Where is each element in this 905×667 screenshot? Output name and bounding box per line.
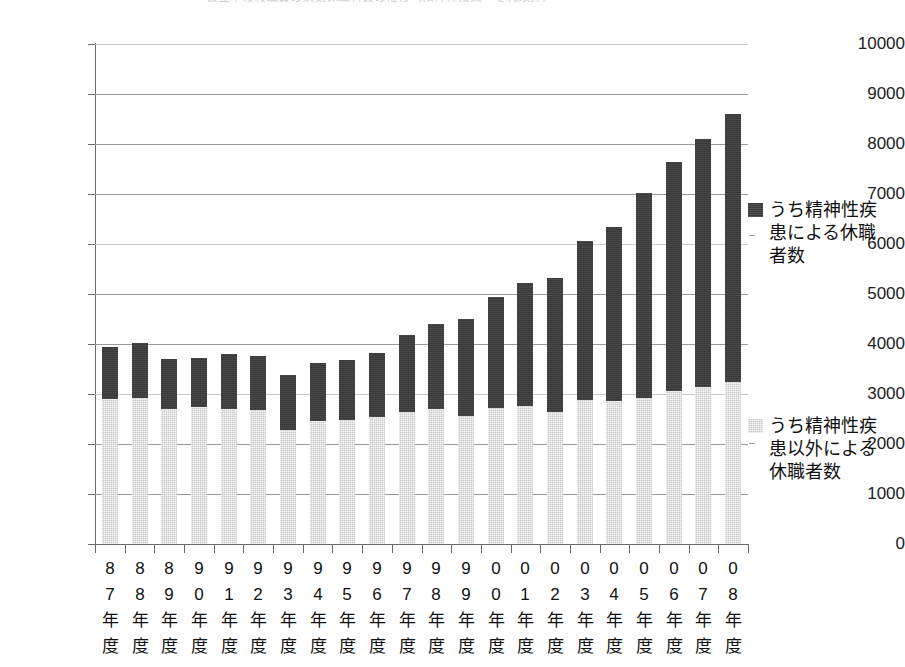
legend-swatch-mental-icon	[748, 203, 763, 217]
x-axis-tick-label: 89年度	[155, 556, 183, 660]
bar-segment-other	[369, 417, 385, 544]
bar-segment-other	[636, 398, 652, 544]
x-axis-tick-mark	[332, 545, 333, 553]
bar-segment-mental	[399, 335, 415, 412]
plot-area	[95, 44, 748, 544]
bar-stack[interactable]	[221, 354, 237, 544]
x-axis-tick-mark	[273, 545, 274, 553]
x-axis-tick-mark	[570, 545, 571, 553]
chart-container: 公立学校教職員の病気休職者数の推移（精神性疾患・それ以外） 0100020003…	[0, 0, 905, 667]
y-axis-tick-label: 5000	[821, 285, 905, 302]
bar-segment-other	[695, 387, 711, 544]
bar-stack[interactable]	[666, 162, 682, 544]
x-axis-tick-mark	[659, 545, 660, 553]
bar-stack[interactable]	[369, 353, 385, 544]
x-axis-tick-label: 00年度	[482, 556, 510, 660]
x-axis-tick-label: 87年度	[96, 556, 124, 660]
x-axis-tick-mark	[481, 545, 482, 553]
x-axis-tick-mark	[303, 545, 304, 553]
bar-stack[interactable]	[695, 140, 711, 544]
bar-stack[interactable]	[161, 360, 177, 544]
x-axis-tick-label: 05年度	[630, 556, 658, 660]
bar-segment-other	[161, 409, 177, 544]
bar-stack[interactable]	[547, 278, 563, 544]
bar-stack[interactable]	[488, 297, 504, 544]
x-axis-tick-mark	[243, 545, 244, 553]
bar-stack[interactable]	[636, 193, 652, 544]
bar-segment-mental	[280, 375, 296, 430]
bar-stack[interactable]	[399, 335, 415, 544]
x-axis-tick-mark	[392, 545, 393, 553]
x-axis-tick-mark	[600, 545, 601, 553]
bar-stack[interactable]	[102, 348, 118, 544]
x-axis-tick-mark	[362, 545, 363, 553]
bar-stack[interactable]	[132, 343, 148, 544]
x-axis-tick-label: 06年度	[660, 556, 688, 660]
x-axis-tick-label: 01年度	[511, 556, 539, 660]
bar-segment-other	[458, 416, 474, 544]
bar-stack[interactable]	[458, 319, 474, 544]
bar-segment-other	[280, 430, 296, 544]
bar-segment-other	[428, 409, 444, 544]
x-axis-tick-label: 04年度	[600, 556, 628, 660]
x-axis-tick-mark	[214, 545, 215, 553]
legend-item-other[interactable]: うち精神性疾患以外による休職者数	[748, 415, 889, 484]
x-axis-tick-label: 91年度	[215, 556, 243, 660]
bar-segment-other	[250, 410, 266, 544]
x-axis-tick-label: 99年度	[452, 556, 480, 660]
y-axis-tick-label: 3000	[821, 385, 905, 402]
bar-segment-mental	[161, 359, 177, 409]
y-axis-tick-label: 4000	[821, 335, 905, 352]
x-axis-tick-label: 90年度	[185, 556, 213, 660]
bar-segment-mental	[132, 343, 148, 398]
x-axis-tick-label: 92年度	[244, 556, 272, 660]
bar-segment-other	[221, 409, 237, 544]
x-axis-tick-mark	[184, 545, 185, 553]
bar-stack[interactable]	[339, 360, 355, 544]
legend-item-mental[interactable]: うち精神性疾患による休職者数	[748, 199, 889, 268]
bar-segment-mental	[517, 283, 533, 406]
x-axis-tick-label: 03年度	[571, 556, 599, 660]
x-axis-tick-label: 96年度	[363, 556, 391, 660]
bar-segment-mental	[725, 114, 741, 382]
bar-stack[interactable]	[606, 227, 622, 544]
x-axis-tick-label: 88年度	[126, 556, 154, 660]
bar-segment-other	[547, 412, 563, 544]
bar-segment-mental	[666, 162, 682, 391]
bar-stack[interactable]	[250, 356, 266, 544]
bar-segment-other	[577, 400, 593, 544]
bar-segment-mental	[221, 354, 237, 409]
bar-segment-other	[310, 421, 326, 544]
bar-segment-mental	[695, 139, 711, 387]
bar-segment-other	[725, 382, 741, 544]
bar-stack[interactable]	[517, 283, 533, 544]
legend-swatch-other-icon	[748, 419, 763, 433]
x-axis-tick-label: 95年度	[333, 556, 361, 660]
bar-segment-other	[399, 412, 415, 544]
x-axis-tick-label: 93年度	[274, 556, 302, 660]
bar-segment-mental	[339, 360, 355, 420]
bar-stack[interactable]	[725, 114, 741, 544]
x-axis-tick-label: 98年度	[422, 556, 450, 660]
legend-label-mental: うち精神性疾患による休職者数	[769, 199, 889, 268]
bar-stack[interactable]	[428, 324, 444, 544]
bar-segment-other	[666, 391, 682, 544]
bar-segment-other	[191, 407, 207, 544]
x-axis-tick-mark	[511, 545, 512, 553]
bar-stack[interactable]	[310, 363, 326, 544]
bar-segment-mental	[428, 324, 444, 409]
bar-segment-other	[132, 398, 148, 544]
x-axis-tick-mark	[451, 545, 452, 553]
bar-stack[interactable]	[280, 375, 296, 544]
bar-segment-other	[488, 408, 504, 544]
y-axis-tick-label: 0	[821, 535, 905, 552]
bar-segment-mental	[458, 319, 474, 416]
bar-stack[interactable]	[577, 241, 593, 544]
legend-label-other: うち精神性疾患以外による休職者数	[769, 415, 889, 484]
bar-stack[interactable]	[191, 358, 207, 544]
x-axis-tick-mark	[748, 545, 749, 553]
bar-segment-other	[339, 420, 355, 544]
gridline	[95, 144, 748, 145]
x-axis-tick-label: 97年度	[393, 556, 421, 660]
bar-segment-mental	[369, 353, 385, 417]
